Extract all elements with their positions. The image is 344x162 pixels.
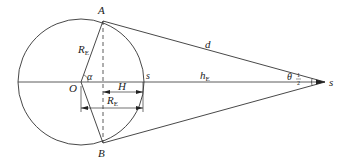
label-RE-dim: RE	[106, 94, 118, 108]
label-B: B	[98, 147, 105, 159]
apex-arrow-icon	[316, 80, 325, 85]
geometry-diagram: A B O s s α RE RE H d hE θ 1 2	[0, 0, 344, 162]
label-alpha: α	[87, 71, 93, 82]
label-hE: hE	[200, 69, 210, 83]
arrowhead-icon	[136, 106, 143, 110]
label-A: A	[97, 4, 105, 16]
arrowhead-icon	[136, 90, 143, 94]
arrowhead-icon	[81, 106, 88, 110]
label-H: H	[117, 80, 127, 92]
label-theta: θ	[287, 71, 292, 82]
label-s-circle: s	[146, 70, 150, 81]
radius-OB	[81, 82, 103, 143]
label-theta-den: 2	[297, 80, 300, 86]
label-RE-radius: RE	[77, 43, 89, 57]
label-O: O	[69, 82, 77, 94]
label-theta-num: 1	[297, 72, 300, 78]
label-s-apex: s	[329, 76, 333, 88]
label-d: d	[205, 38, 211, 50]
